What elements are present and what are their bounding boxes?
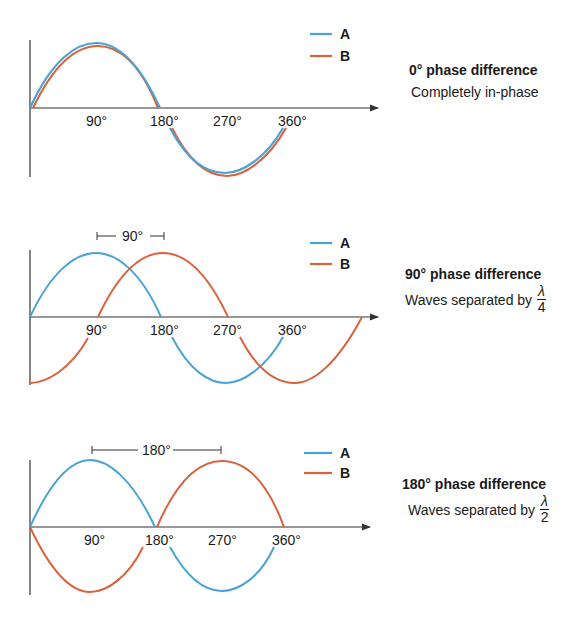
note-title: 0° phase difference: [409, 62, 539, 78]
wave-b: [33, 46, 286, 176]
wave-a: [30, 460, 274, 591]
note-desc: Waves separated by: [408, 502, 535, 518]
note-90deg: 90° phase difference Waves separated by …: [405, 266, 546, 315]
svg-text:180°: 180°: [150, 322, 179, 338]
svg-text:B: B: [340, 48, 350, 64]
svg-text:A: A: [340, 26, 350, 42]
svg-text:90°: 90°: [86, 322, 107, 338]
svg-text:270°: 270°: [213, 113, 242, 129]
note-title: 180° phase difference: [402, 476, 549, 492]
note-title: 90° phase difference: [405, 266, 546, 282]
svg-text:90°: 90°: [122, 228, 143, 244]
svg-text:B: B: [340, 465, 350, 481]
svg-text:270°: 270°: [213, 322, 242, 338]
svg-text:180°: 180°: [145, 532, 174, 548]
svg-text:360°: 360°: [278, 113, 307, 129]
note-desc: Waves separated by: [405, 292, 532, 308]
fraction-lambda-4: λ 4: [537, 284, 546, 315]
panel-180deg: 180° 90° 180° 270° 360° A B: [30, 442, 370, 595]
svg-text:360°: 360°: [278, 322, 307, 338]
note-180deg: 180° phase difference Waves separated by…: [402, 476, 549, 525]
svg-text:B: B: [340, 256, 350, 272]
svg-text:A: A: [340, 235, 350, 251]
note-desc: Completely in-phase: [411, 84, 539, 100]
svg-text:360°: 360°: [272, 532, 301, 548]
svg-text:270°: 270°: [208, 532, 237, 548]
svg-text:180°: 180°: [150, 113, 179, 129]
svg-text:180°: 180°: [142, 442, 171, 458]
fraction-lambda-2: λ 2: [540, 494, 549, 525]
svg-text:90°: 90°: [86, 113, 107, 129]
svg-text:90°: 90°: [84, 532, 105, 548]
note-0deg: 0° phase difference Completely in-phase: [409, 62, 539, 100]
svg-text:A: A: [340, 445, 350, 461]
panel-0deg: 90° 180° 270° 360° A B: [30, 26, 378, 177]
wave-b: [30, 253, 362, 383]
panel-90deg: 90° 90° 180° 270° 360° A B: [30, 228, 378, 385]
